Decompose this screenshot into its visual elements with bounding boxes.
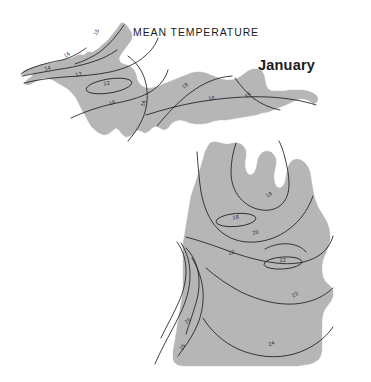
contour-label-up-15: 15 [92, 28, 100, 36]
contour-label-up-18-e: 18 [208, 95, 215, 102]
contour-label-up-12: 12 [103, 80, 110, 87]
michigan-map-svg: 15161413121416181816181820222223262524 [0, 0, 371, 382]
map-subtitle-month: January [258, 57, 315, 73]
upper-peninsula-landmass [22, 23, 318, 137]
page-title: MEAN TEMPERATURE [133, 26, 259, 38]
contour-label-lp-22-core: 22 [279, 257, 286, 264]
contour-label-lp-18-core: 18 [232, 214, 239, 221]
temperature-contour-map-figure: 15161413121416181816181820222223262524 M… [0, 0, 371, 382]
